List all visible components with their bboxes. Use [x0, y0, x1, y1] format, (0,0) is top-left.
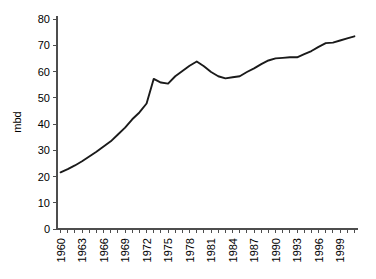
data-series-line: [61, 36, 355, 172]
y-axis-title: mbd: [11, 111, 23, 132]
line-chart: 0102030405060708019601963196619691972197…: [0, 0, 376, 279]
x-tick-label: 1963: [76, 238, 88, 262]
y-tick-label: 40: [38, 118, 50, 130]
x-tick-label: 1969: [119, 238, 131, 262]
y-tick-label: 50: [38, 92, 50, 104]
x-tick-label: 1987: [248, 238, 260, 262]
y-tick-label: 80: [38, 13, 50, 25]
x-tick-label: 1966: [98, 238, 110, 262]
x-tick-label: 1990: [270, 238, 282, 262]
x-tick-label: 1978: [184, 238, 196, 262]
y-tick-label: 30: [38, 144, 50, 156]
chart-canvas: 0102030405060708019601963196619691972197…: [0, 0, 376, 279]
x-tick-label: 1975: [162, 238, 174, 262]
y-tick-label: 20: [38, 171, 50, 183]
y-tick-label: 60: [38, 66, 50, 78]
y-tick-label: 0: [44, 223, 50, 235]
x-tick-label: 1984: [227, 238, 239, 262]
x-tick-label: 1960: [55, 238, 67, 262]
x-tick-label: 1993: [291, 238, 303, 262]
x-tick-label: 1996: [313, 238, 325, 262]
x-tick-label: 1999: [334, 238, 346, 262]
y-tick-label: 70: [38, 39, 50, 51]
y-tick-label: 10: [38, 197, 50, 209]
x-tick-label: 1981: [205, 238, 217, 262]
x-tick-label: 1972: [141, 238, 153, 262]
